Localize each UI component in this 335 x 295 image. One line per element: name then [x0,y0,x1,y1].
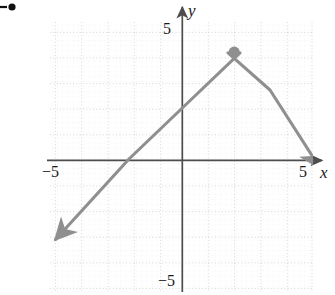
y-axis-tick-label-positive-five: 5 [163,20,171,38]
x-axis-tick-label-negative-five: −5 [42,163,59,181]
x-axis-tick-label-positive-five: 5 [299,163,307,181]
x-axis-label: x [320,163,328,183]
y-axis-label: y [188,1,196,21]
figure-canvas: y x 5 −5 −5 5 [0,0,335,295]
coordinate-plane-graph [0,0,335,295]
y-axis-tick-label-negative-five: −5 [158,272,175,290]
vertex-point-marker [229,47,240,58]
